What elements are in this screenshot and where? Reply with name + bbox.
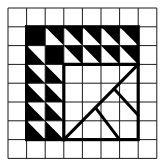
black-cell xyxy=(45,46,64,65)
half-triangle-cell xyxy=(82,27,101,46)
half-triangle-cell xyxy=(27,46,46,65)
half-triangle-cell xyxy=(27,64,46,83)
grid-pattern-figure xyxy=(0,0,161,166)
half-triangle-cell xyxy=(45,102,64,121)
half-triangle-cell xyxy=(101,46,120,65)
half-triangle-cell xyxy=(120,27,139,46)
half-triangle-cell xyxy=(45,83,64,102)
half-triangle-cell xyxy=(45,121,64,140)
half-triangle-cell xyxy=(27,83,46,102)
half-triangle-cell xyxy=(64,27,83,46)
half-triangle-cell xyxy=(45,27,64,46)
half-triangle-cell xyxy=(82,46,101,65)
half-triangle-cell xyxy=(45,64,64,83)
half-triangle-cell xyxy=(27,102,46,121)
half-triangle-cell xyxy=(64,46,83,65)
half-triangle-cell xyxy=(101,27,120,46)
half-triangle-cell xyxy=(120,46,139,65)
lower-perpendicular-line xyxy=(95,108,119,140)
half-triangle-cell xyxy=(27,121,46,140)
black-cell xyxy=(27,27,46,46)
